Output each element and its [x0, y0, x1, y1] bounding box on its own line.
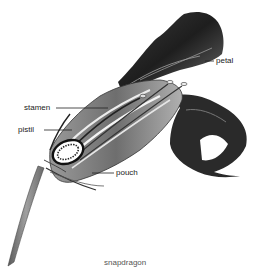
corolla-tube	[50, 80, 183, 182]
label-stamen: stamen	[24, 104, 50, 112]
snapdragon-illustration: petal stamen pistil pouch snapdragon	[0, 0, 254, 273]
upper-petal	[118, 12, 224, 92]
flower-drawing	[0, 0, 254, 273]
label-petal: petal	[216, 57, 233, 65]
figure-caption: snapdragon	[104, 259, 146, 267]
label-pouch: pouch	[116, 169, 138, 177]
stem	[8, 166, 44, 266]
label-pistil: pistil	[18, 126, 34, 134]
